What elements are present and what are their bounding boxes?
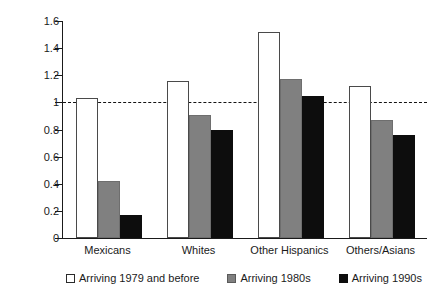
bar-groups-layer bbox=[63, 21, 427, 238]
legend-item-label: Arriving 1980s bbox=[240, 272, 310, 285]
bar[interactable] bbox=[189, 115, 211, 238]
y-tick-label: 0.4 bbox=[44, 178, 59, 189]
bar[interactable] bbox=[349, 86, 371, 238]
legend-item-label: Arriving 1990s bbox=[352, 272, 422, 285]
bar[interactable] bbox=[393, 135, 415, 238]
bar[interactable] bbox=[211, 130, 233, 239]
y-tick-label: 0.2 bbox=[44, 205, 59, 216]
y-tick-label: 1.6 bbox=[44, 16, 59, 27]
x-axis-category-labels: MexicansWhitesOther HispanicsOthers/Asia… bbox=[62, 243, 426, 259]
legend-item[interactable]: Arriving 1980s bbox=[227, 272, 310, 285]
bar[interactable] bbox=[280, 79, 302, 238]
x-category-label: Other Hispanics bbox=[250, 243, 328, 257]
legend-item[interactable]: Arriving 1979 and before bbox=[66, 272, 199, 285]
y-tick-label: 0 bbox=[53, 233, 59, 244]
white-square-icon bbox=[66, 274, 75, 283]
bar[interactable] bbox=[76, 98, 98, 238]
x-category-label: Whites bbox=[182, 243, 216, 257]
bar-group bbox=[167, 21, 233, 238]
legend-item-label: Arriving 1979 and before bbox=[79, 272, 199, 285]
y-tick-label: 1 bbox=[53, 97, 59, 108]
black-square-icon bbox=[339, 274, 348, 283]
plot-area: 00.20.40.60.811.21.41.6 bbox=[62, 21, 427, 239]
bar-group bbox=[349, 21, 415, 238]
bar[interactable] bbox=[302, 96, 324, 238]
bar[interactable] bbox=[258, 32, 280, 238]
bar[interactable] bbox=[371, 120, 393, 238]
x-category-label: Mexicans bbox=[84, 243, 130, 257]
x-category-label: Others/Asians bbox=[346, 243, 415, 257]
y-tick-label: 0.8 bbox=[44, 124, 59, 135]
bar-group bbox=[258, 21, 324, 238]
gray-square-icon bbox=[227, 274, 236, 283]
y-tick-label: 0.6 bbox=[44, 151, 59, 162]
y-tick-label: 1.4 bbox=[44, 43, 59, 54]
chart-legend: Arriving 1979 and beforeArriving 1980sAr… bbox=[62, 272, 426, 285]
y-tick-label: 1.2 bbox=[44, 70, 59, 81]
bar-chart-figure: 00.20.40.60.811.21.41.6 MexicansWhitesOt… bbox=[0, 0, 448, 296]
bar-group bbox=[76, 21, 142, 238]
bar[interactable] bbox=[98, 181, 120, 238]
legend-item[interactable]: Arriving 1990s bbox=[339, 272, 422, 285]
bar[interactable] bbox=[167, 81, 189, 238]
bar[interactable] bbox=[120, 215, 142, 238]
